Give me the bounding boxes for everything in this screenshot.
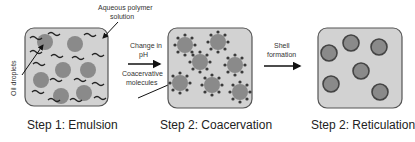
emulsion-panel [22, 22, 118, 106]
step2-caption: Step 2: Coacervation [160, 118, 272, 132]
step3-caption: Step 2: Reticulation [311, 118, 415, 132]
aqueous-label-line1: Aqueous polymer [98, 4, 152, 12]
coacervative-label-line1: Coacervative [122, 70, 163, 78]
coacervation-panel [168, 28, 252, 108]
change-label-line1: Change in [130, 42, 162, 50]
coacervative-label-line2: molecules [126, 79, 158, 87]
step1-caption: Step 1: Emulsion [27, 118, 118, 132]
shell-label-line1: Shell [274, 42, 290, 50]
change-label-line2: pH [139, 51, 148, 59]
shell-label-line2: formation [267, 51, 296, 59]
reticulation-panel [318, 28, 402, 108]
oil-droplets-label: Oil droplets [10, 61, 17, 96]
aqueous-label-line2: solution [110, 13, 134, 21]
